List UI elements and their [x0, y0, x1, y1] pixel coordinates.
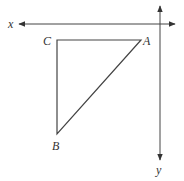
vertex-a-label: A — [142, 34, 151, 48]
coordinate-diagram: x y C A B — [0, 0, 184, 181]
triangle-cab — [57, 40, 141, 134]
y-axis-label: y — [155, 163, 162, 177]
vertex-c-label: C — [43, 34, 52, 48]
x-axis-label: x — [7, 17, 14, 31]
vertex-b-label: B — [52, 139, 60, 153]
